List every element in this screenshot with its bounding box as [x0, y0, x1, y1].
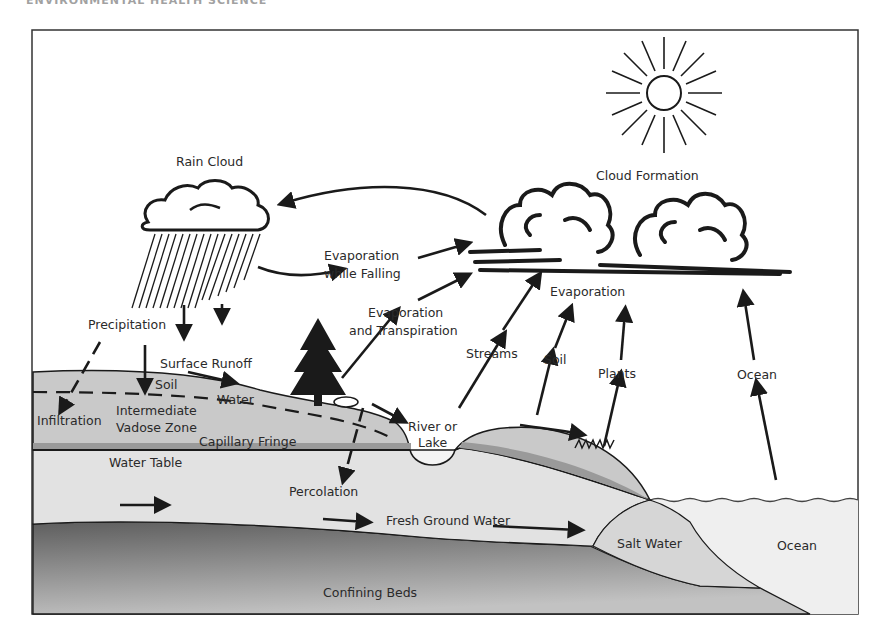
label-evap-transpiration-2: and Transpiration: [349, 323, 458, 338]
label-evaporation: Evaporation: [550, 284, 625, 299]
label-intermediate-1: Intermediate: [116, 403, 197, 418]
label-evap-transpiration-1: Evaporation: [368, 305, 443, 320]
label-precipitation: Precipitation: [88, 317, 166, 332]
label-confining-beds: Confining Beds: [323, 585, 417, 600]
label-ocean: Ocean: [777, 538, 817, 553]
label-capillary-fringe: Capillary Fringe: [199, 434, 297, 449]
water-cycle-diagram: Rain Cloud Cloud Formation Evaporation w…: [0, 0, 885, 639]
label-river-1: River or: [408, 419, 458, 434]
label-percolation: Percolation: [289, 484, 358, 499]
label-river-2: Lake: [418, 435, 447, 450]
label-salt-water: Salt Water: [617, 536, 683, 551]
label-surface-runoff: Surface Runoff: [160, 356, 252, 371]
label-infiltration: Infiltration: [37, 413, 102, 428]
label-cloud-formation: Cloud Formation: [596, 168, 699, 183]
label-evaporation-falling-2: while Falling: [324, 266, 401, 281]
label-soil-source: Soil: [544, 352, 567, 367]
label-fresh-ground-water: Fresh Ground Water: [386, 513, 511, 528]
label-evaporation-falling-1: Evaporation: [324, 248, 399, 263]
label-soil-zone: Soil: [155, 377, 178, 392]
label-intermediate-2: Vadose Zone: [116, 420, 197, 435]
label-streams: Streams: [466, 346, 518, 361]
label-water-table: Water Table: [109, 455, 183, 470]
label-rain-cloud: Rain Cloud: [176, 154, 243, 169]
label-water-zone: Water: [217, 392, 255, 407]
bush-icon: [334, 397, 358, 407]
label-ocean-source: Ocean: [737, 367, 777, 382]
label-plants: Plants: [598, 366, 636, 381]
